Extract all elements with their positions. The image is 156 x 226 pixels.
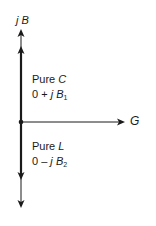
j-symbol: j — [16, 14, 18, 26]
expr-var: B — [56, 88, 63, 100]
vertical-axis-label: j B — [16, 14, 29, 27]
expr-sub: 1 — [64, 94, 68, 101]
pure-l-expression: 0 – j B2 — [32, 155, 67, 168]
expr-j: j — [50, 155, 52, 167]
title-var: C — [58, 73, 66, 85]
horizontal-axis-label: G — [130, 115, 139, 128]
title-prefix: Pure — [32, 73, 58, 85]
origin-dot — [19, 120, 24, 125]
b-symbol: B — [22, 14, 29, 26]
title-prefix: Pure — [32, 140, 58, 152]
pure-c-label: Pure C 0 + j B1 — [32, 73, 67, 101]
pure-l-title: Pure L — [32, 140, 67, 153]
pure-c-expression: 0 + j B1 — [32, 88, 67, 101]
title-var: L — [58, 140, 64, 152]
expr-prefix: 0 – — [32, 155, 50, 167]
expr-prefix: 0 + — [32, 88, 51, 100]
expr-j: j — [51, 88, 53, 100]
expr-sub: 2 — [63, 161, 67, 168]
pure-c-title: Pure C — [32, 73, 67, 86]
admittance-diagram — [0, 0, 156, 226]
pure-l-label: Pure L 0 – j B2 — [32, 140, 67, 168]
